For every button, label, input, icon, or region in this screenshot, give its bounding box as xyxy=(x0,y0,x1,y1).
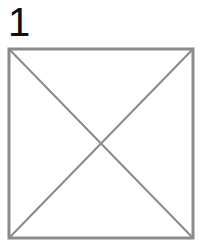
square-with-diagonals-diagram xyxy=(0,0,204,249)
